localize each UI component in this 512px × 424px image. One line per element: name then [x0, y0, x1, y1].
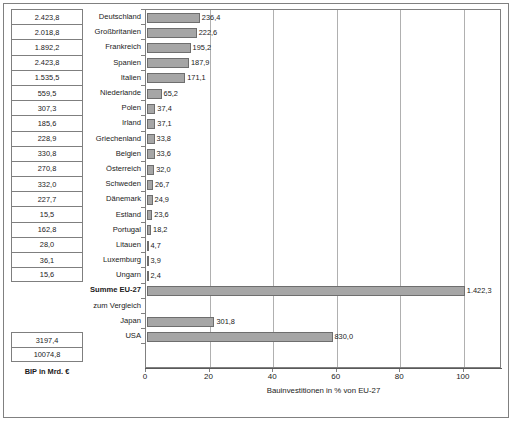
category-label: Summe EU-27 [86, 282, 144, 297]
category-label: Dänemark [86, 191, 144, 206]
category-label: Portugal [86, 222, 144, 237]
category-label: Schweden [86, 176, 144, 191]
bar[interactable] [147, 58, 189, 68]
gdp-value-box: 15,6 [11, 267, 83, 282]
gdp-value-box: 185,6 [11, 115, 83, 130]
category-label: Luxemburg [86, 252, 144, 267]
gdp-value-box: 28,0 [11, 237, 83, 252]
chart-row: 23,6 [146, 208, 500, 223]
category-label: Polen [86, 100, 144, 115]
category-label: Niederlande [86, 85, 144, 100]
bar-value-label: 32,0 [154, 165, 170, 175]
bar[interactable] [147, 134, 155, 144]
chart-row: 1.422,3 [146, 284, 500, 299]
gdp-value-box: 228,9 [11, 131, 83, 146]
gdp-value-column-comparison: 3197,410074,8 [11, 332, 83, 362]
bar[interactable] [147, 332, 333, 342]
bar-value-label: 23,6 [152, 210, 168, 220]
chart-row: 187,9 [146, 56, 500, 71]
chart-row: 830,0 [146, 329, 500, 344]
chart-row: 65,2 [146, 86, 500, 101]
x-axis-line [145, 368, 502, 369]
x-tick-label: 100 [456, 372, 469, 381]
gdp-value-box: 36,1 [11, 252, 83, 267]
bar-value-label: 37,4 [155, 104, 171, 114]
chart-row: 2,4 [146, 268, 500, 283]
bar[interactable] [147, 317, 214, 327]
chart-row: 37,1 [146, 116, 500, 131]
chart-row: 3,9 [146, 253, 500, 268]
gdp-value-box: 307,3 [11, 100, 83, 115]
gdp-value-box: 227,7 [11, 191, 83, 206]
bar[interactable] [147, 89, 162, 99]
gdp-value-column-primary: 2.423,82.018,81.892,22.423,81.535,5559,5… [11, 9, 83, 282]
bar[interactable] [147, 149, 155, 159]
gdp-value-box: 162,8 [11, 222, 83, 237]
gdp-value-box: 1.535,5 [11, 70, 83, 85]
bar-value-label: 236,4 [200, 13, 221, 23]
chart-row: 24,9 [146, 192, 500, 207]
category-label: Estland [86, 206, 144, 221]
x-axis-title: Bauinvestitionen in % von EU-27 [145, 386, 502, 395]
bar-value-label: 26,7 [153, 180, 169, 190]
gdp-value-box: 332,0 [11, 176, 83, 191]
bar-value-label: 2,4 [149, 271, 161, 281]
bar-value-label: 1.422,3 [465, 286, 492, 296]
category-label-column: DeutschlandGroßbritanienFrankreichSpanie… [86, 9, 144, 343]
chart-row: 4,7 [146, 238, 500, 253]
gdp-value-box: 2.423,8 [11, 55, 83, 70]
chart-row: 236,4 [146, 10, 500, 25]
chart-row: 37,4 [146, 101, 500, 116]
x-tick-label: 20 [204, 372, 213, 381]
gdp-value-box: 270,8 [11, 161, 83, 176]
category-label: Irland [86, 115, 144, 130]
category-label: Belgien [86, 146, 144, 161]
category-label: Österreich [86, 161, 144, 176]
bar-value-label: 171,1 [185, 73, 206, 83]
bar-value-label: 65,2 [162, 89, 178, 99]
bar-value-label: 3,9 [149, 256, 161, 266]
chart-row: 195,2 [146, 40, 500, 55]
bar[interactable] [147, 28, 197, 38]
category-label: Frankreich [86, 39, 144, 54]
bar-value-label: 33,8 [155, 134, 171, 144]
category-label: Japan [86, 313, 144, 328]
chart-row: 26,7 [146, 177, 500, 192]
gdp-value-box: 15,5 [11, 206, 83, 221]
chart-row: 171,1 [146, 71, 500, 86]
category-label: Deutschland [86, 9, 144, 24]
bar[interactable] [147, 119, 155, 129]
category-label: Ungarn [86, 267, 144, 282]
x-tick-label: 80 [395, 372, 404, 381]
bar-value-label: 37,1 [155, 119, 171, 129]
gdp-caption: BIP in Mrd. € [11, 367, 83, 376]
bar-value-label: 24,9 [153, 195, 169, 205]
chart-screenshot: 2.423,82.018,81.892,22.423,81.535,5559,5… [0, 0, 512, 424]
gdp-value-box: 559,5 [11, 85, 83, 100]
category-label: Griechenland [86, 131, 144, 146]
x-tick-label: 0 [143, 372, 147, 381]
bar[interactable] [147, 73, 185, 83]
chart-row: 301,8 [146, 314, 500, 329]
bar[interactable] [147, 104, 155, 114]
bar-value-label: 830,0 [333, 332, 354, 342]
bar-value-label: 195,2 [191, 43, 212, 53]
chart-row [146, 299, 500, 314]
bar-value-label: 33,6 [155, 149, 171, 159]
category-label: Italien [86, 70, 144, 85]
chart-row: 18,2 [146, 223, 500, 238]
x-tick-label: 40 [268, 372, 277, 381]
bar-value-label: 187,9 [189, 58, 210, 68]
category-label: USA [86, 328, 144, 343]
bar[interactable] [147, 43, 191, 53]
bar[interactable] [147, 13, 200, 23]
bar[interactable] [147, 286, 465, 296]
gdp-value-box: 10074,8 [11, 347, 83, 362]
bar[interactable] [147, 165, 154, 175]
gdp-value-box: 1.892,2 [11, 39, 83, 54]
bar-value-label: 18,2 [151, 225, 167, 235]
gdp-value-box: 2.018,8 [11, 24, 83, 39]
plot-area: 236,4222,6195,2187,9171,165,237,437,133,… [145, 9, 501, 368]
gdp-value-box: 330,8 [11, 146, 83, 161]
chart-row: 33,6 [146, 147, 500, 162]
